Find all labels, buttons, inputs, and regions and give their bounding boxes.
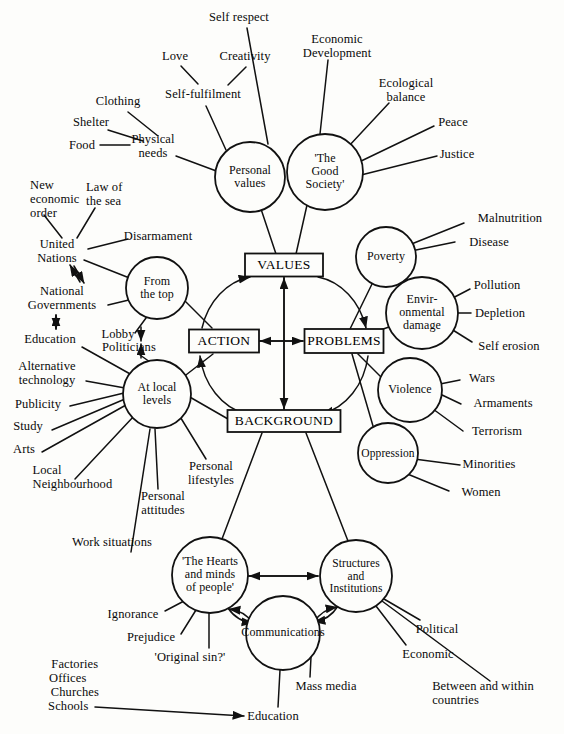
- edge-self-respect: [247, 28, 268, 144]
- leaf-label-education-bottom: Education: [247, 709, 299, 723]
- leaf-label-united-nations: United Nations: [37, 237, 77, 265]
- edge-law-of-the-sea: [77, 208, 95, 238]
- leaf-label-personal-lifestyles: Personal lifestyles: [188, 459, 234, 487]
- edge-creativity: [228, 67, 246, 85]
- edge-ecological-balance: [348, 103, 389, 147]
- leaf-label-law-of-the-sea: Law of the sea: [86, 180, 122, 208]
- edge-physical-needs: [176, 156, 219, 172]
- node-label-oppression: Oppression: [361, 447, 414, 460]
- leaf-label-malnutrition: Malnutrition: [478, 211, 542, 225]
- node-label-violence: Violence: [388, 383, 431, 396]
- edge-good-society-to-values: [296, 205, 307, 254]
- leaf-label-publicity: Publicity: [15, 397, 61, 411]
- leaf-label-ignorance: Ignorance: [108, 607, 159, 621]
- node-label-from-the-top: From the top: [140, 275, 174, 301]
- edge-disarmament: [88, 239, 128, 249]
- leaf-label-pollution: Pollution: [474, 278, 521, 292]
- leaf-label-offices: Offices: [49, 671, 86, 685]
- edge-violence-to-problems: [358, 354, 382, 378]
- leaf-label-national-governments: National Governments: [28, 284, 96, 312]
- leaf-label-disarmament: Disarmament: [124, 229, 192, 243]
- leaf-label-physical-needs: Physical needs: [131, 132, 174, 160]
- leaf-label-churches: Churches: [51, 685, 99, 699]
- arc-background-to-action: [200, 356, 246, 414]
- leaf-label-local-neighbourhood: Local Neighbourhood: [32, 463, 112, 491]
- edge-background-to-structures: [306, 433, 348, 541]
- leaf-label-armaments: Armaments: [473, 396, 532, 410]
- edge-self-fulfilment: [206, 106, 226, 150]
- leaf-label-love: Love: [162, 49, 188, 63]
- edge-publicity: [70, 393, 124, 406]
- edge-poverty-to-problems: [350, 284, 372, 329]
- leaf-label-creativity: Creativity: [220, 49, 271, 63]
- edge-economic-development: [320, 60, 328, 134]
- box-label-problems: PROBLEMS: [307, 333, 381, 349]
- leaf-label-wars: Wars: [469, 371, 495, 385]
- leaf-label-personal-attitudes: Personal attitudes: [141, 489, 185, 517]
- leaf-label-economic-development: Economic Development: [303, 32, 371, 60]
- leaf-label-self-erosion: Self erosion: [478, 339, 539, 353]
- leaf-label-mass-media: Mass media: [295, 679, 356, 693]
- edge-malnutrition: [409, 223, 464, 245]
- node-label-structures: Structures and Institutions: [330, 557, 383, 595]
- edge-from-top-to-action: [184, 300, 212, 328]
- edge-love: [181, 66, 198, 84]
- edge-personal-attitudes: [155, 429, 158, 489]
- edge-disease: [416, 242, 455, 250]
- concept-map-diagram: Personal values 'The Good Society' From …: [0, 0, 564, 734]
- edge-peace: [357, 126, 434, 163]
- leaf-label-disease: Disease: [469, 235, 509, 249]
- edge-terrorism: [433, 409, 463, 431]
- edge-minorities: [414, 459, 460, 465]
- leaf-label-alternative-tech: Alternative technology: [18, 359, 75, 387]
- leaf-label-ecological-balance: Ecological balance: [379, 76, 433, 104]
- edge-women: [405, 473, 449, 491]
- leaf-label-politicians: Politicians: [102, 340, 156, 354]
- box-label-values: VALUES: [257, 257, 310, 273]
- leaf-label-original-sin: 'Original sin?': [155, 650, 226, 664]
- edge-justice: [361, 156, 437, 175]
- node-label-poverty: Poverty: [367, 250, 405, 263]
- edge-un-to-from-top: [84, 260, 132, 279]
- node-label-environmental: Envir- onmental damage: [399, 293, 444, 333]
- edge-communications-education: [278, 670, 280, 707]
- edge-local-to-action: [182, 354, 213, 378]
- leaf-label-minorities: Minorities: [462, 457, 515, 471]
- leaf-label-lobby: Lobby: [101, 327, 134, 341]
- leaf-label-factories: Factories: [51, 657, 98, 671]
- leaf-label-schools: Schools: [48, 699, 88, 713]
- leaf-label-study: Study: [13, 419, 43, 433]
- leaf-label-shelter: Shelter: [73, 115, 109, 129]
- arc-values-to-problems: [318, 277, 366, 328]
- leaf-label-self-fulfilment: Self-fulfilment: [165, 87, 241, 101]
- leaf-label-political: Political: [416, 622, 459, 636]
- node-label-good-society: 'The Good Society': [306, 152, 345, 192]
- edge-structures-between-within: [382, 601, 490, 681]
- leaf-label-justice: Justice: [440, 147, 475, 161]
- leaf-label-clothing: Clothing: [96, 94, 141, 108]
- leaf-label-work-situations: Work situations: [72, 535, 152, 549]
- edge-armaments: [440, 394, 461, 404]
- edge-structures-political: [384, 599, 420, 620]
- edge-mass-media: [310, 657, 311, 677]
- leaf-label-self-respect: Self respect: [209, 10, 269, 24]
- node-label-communications: Communications: [241, 626, 324, 639]
- edge-personal-values-to-values: [261, 209, 276, 254]
- leaf-label-food: Food: [69, 138, 95, 152]
- leaf-label-women: Women: [461, 485, 500, 499]
- edge-prejudice: [181, 610, 196, 634]
- leaf-label-prejudice: Prejudice: [127, 630, 175, 644]
- node-label-personal-values: Personal values: [229, 164, 271, 190]
- edge-ignorance: [165, 601, 184, 611]
- node-label-at-local-levels: At local levels: [137, 381, 176, 407]
- leaf-label-arts: Arts: [13, 442, 35, 456]
- leaf-label-education-left: Education: [24, 332, 76, 346]
- leaf-label-economic: Economic: [402, 647, 453, 661]
- edge-local-to-background: [188, 396, 228, 419]
- edge-wars: [440, 380, 460, 384]
- leaf-label-depletion: Depletion: [475, 306, 525, 320]
- box-label-action: ACTION: [198, 333, 251, 349]
- leaf-label-peace: Peace: [438, 115, 468, 129]
- diagram-canvas: [0, 0, 564, 734]
- leaf-label-terrorism: Terrorism: [472, 424, 522, 438]
